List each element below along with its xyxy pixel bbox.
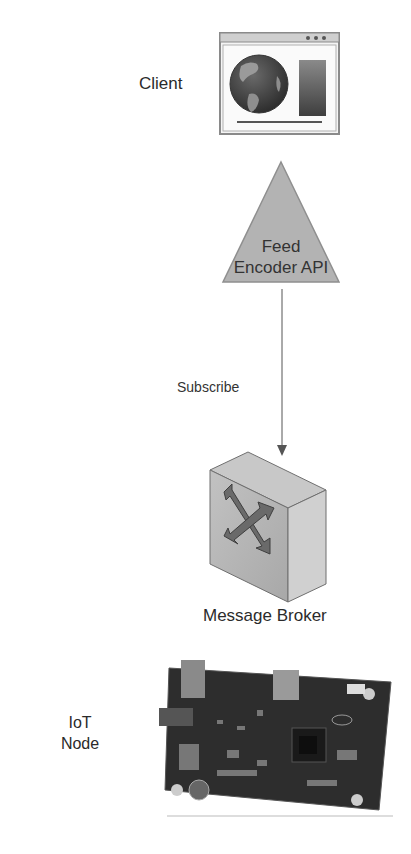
circuit-board-icon [157, 650, 397, 820]
iot-node-label-line1: IoT [50, 712, 110, 733]
arrow-down-icon [276, 289, 288, 457]
subscribe-edge-label: Subscribe [177, 379, 239, 395]
message-broker-label: Message Broker [203, 606, 327, 626]
feed-encoder-node: Feed Encoder API [221, 160, 341, 284]
iot-node-label-line2: Node [50, 733, 110, 754]
message-broker-node [208, 450, 328, 606]
iot-node [157, 650, 397, 820]
subscribe-arrow [276, 289, 288, 457]
client-label: Client [139, 74, 182, 94]
feed-encoder-label-line2: Encoder API [221, 257, 341, 278]
switch-box-icon [208, 450, 328, 606]
feed-encoder-label-line1: Feed [221, 236, 341, 257]
browser-globe-icon [219, 32, 340, 135]
client-node [219, 32, 340, 135]
